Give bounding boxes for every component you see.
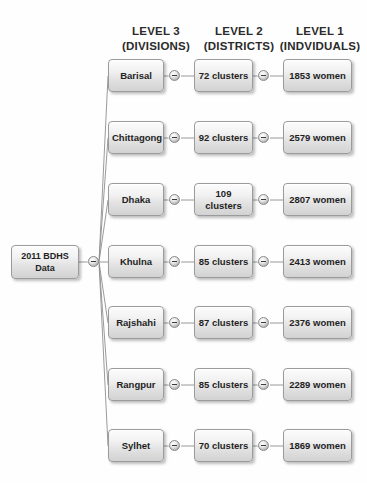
minus-circle-icon-root[interactable] — [88, 256, 99, 267]
clusters-label: 85 clusters — [195, 256, 252, 268]
minus-circle-icon-division-2[interactable] — [169, 194, 180, 205]
minus-circle-icon-division-3[interactable] — [169, 256, 180, 267]
division-node-rangpur[interactable]: Rangpur — [108, 368, 164, 401]
minus-circle-icon-district-0[interactable] — [258, 70, 269, 81]
minus-circle-icon-division-6[interactable] — [169, 440, 180, 451]
column-header-level-1-line1: LEVEL 1 — [272, 24, 367, 39]
minus-circle-icon-division-5[interactable] — [169, 379, 180, 390]
district-node-chittagong[interactable]: 92 clusters — [194, 121, 253, 154]
individuals-label: 2579 women — [284, 132, 351, 144]
clusters-label: 72 clusters — [195, 70, 252, 82]
minus-circle-icon-division-1[interactable] — [169, 132, 180, 143]
individuals-label: 2289 women — [284, 379, 351, 391]
column-header-level-3-line1: LEVEL 3 — [108, 24, 204, 39]
division-label: Rangpur — [109, 379, 163, 391]
column-header-level-1-line2: (INDVIDUALS) — [272, 39, 367, 54]
clusters-label: 109 clusters — [195, 188, 252, 212]
root-node-label-line2: Data — [15, 262, 75, 274]
individuals-node-rangpur[interactable]: 2289 women — [283, 368, 352, 401]
district-node-rangpur[interactable]: 85 clusters — [194, 368, 253, 401]
division-node-barisal[interactable]: Barisal — [108, 59, 164, 92]
division-node-dhaka[interactable]: Dhaka — [108, 183, 164, 216]
individuals-node-sylhet[interactable]: 1869 women — [283, 429, 352, 462]
minus-circle-icon-division-4[interactable] — [169, 317, 180, 328]
individuals-label: 2807 women — [284, 194, 351, 206]
individuals-label: 1869 women — [284, 440, 351, 452]
minus-circle-icon-district-1[interactable] — [258, 132, 269, 143]
district-node-rajshahi[interactable]: 87 clusters — [194, 306, 253, 339]
individuals-node-barisal[interactable]: 1853 women — [283, 59, 352, 92]
division-label: Dhaka — [109, 194, 163, 206]
individuals-label: 1853 women — [284, 70, 351, 82]
individuals-node-khulna[interactable]: 2413 women — [283, 245, 352, 278]
individuals-label: 2413 women — [284, 256, 351, 268]
division-label: Barisal — [109, 70, 163, 82]
district-node-sylhet[interactable]: 70 clusters — [194, 429, 253, 462]
division-label: Chittagong — [109, 132, 163, 144]
individuals-node-rajshahi[interactable]: 2376 women — [283, 306, 352, 339]
column-header-level-1: LEVEL 1 (INDVIDUALS) — [272, 24, 367, 54]
diagram-canvas: LEVEL 3 (DIVISIONS) LEVEL 2 (DISTRICTS) … — [0, 0, 367, 483]
clusters-label: 92 clusters — [195, 132, 252, 144]
column-header-level-3-line2: (DIVISIONS) — [108, 39, 204, 54]
district-node-khulna[interactable]: 85 clusters — [194, 245, 253, 278]
district-node-barisal[interactable]: 72 clusters — [194, 59, 253, 92]
root-node-label: 2011 BDHS Data — [12, 250, 78, 274]
division-label: Khulna — [109, 256, 163, 268]
clusters-label: 85 clusters — [195, 379, 252, 391]
minus-circle-icon-district-5[interactable] — [258, 379, 269, 390]
division-label: Sylhet — [109, 440, 163, 452]
division-node-rajshahi[interactable]: Rajshahi — [108, 306, 164, 339]
individuals-label: 2376 women — [284, 317, 351, 329]
division-node-khulna[interactable]: Khulna — [108, 245, 164, 278]
minus-circle-icon-district-4[interactable] — [258, 317, 269, 328]
root-node-bdhs-data[interactable]: 2011 BDHS Data — [11, 245, 79, 279]
root-node-label-line1: 2011 BDHS — [15, 250, 75, 262]
minus-circle-icon-district-2[interactable] — [258, 194, 269, 205]
column-header-level-3: LEVEL 3 (DIVISIONS) — [108, 24, 204, 54]
clusters-label: 87 clusters — [195, 317, 252, 329]
minus-circle-icon-division-0[interactable] — [169, 70, 180, 81]
district-node-dhaka[interactable]: 109 clusters — [194, 183, 253, 216]
individuals-node-chittagong[interactable]: 2579 women — [283, 121, 352, 154]
minus-circle-icon-district-6[interactable] — [258, 440, 269, 451]
individuals-node-dhaka[interactable]: 2807 women — [283, 183, 352, 216]
minus-circle-icon-district-3[interactable] — [258, 256, 269, 267]
division-node-sylhet[interactable]: Sylhet — [108, 429, 164, 462]
division-node-chittagong[interactable]: Chittagong — [108, 121, 164, 154]
division-label: Rajshahi — [109, 317, 163, 329]
clusters-label: 70 clusters — [195, 440, 252, 452]
